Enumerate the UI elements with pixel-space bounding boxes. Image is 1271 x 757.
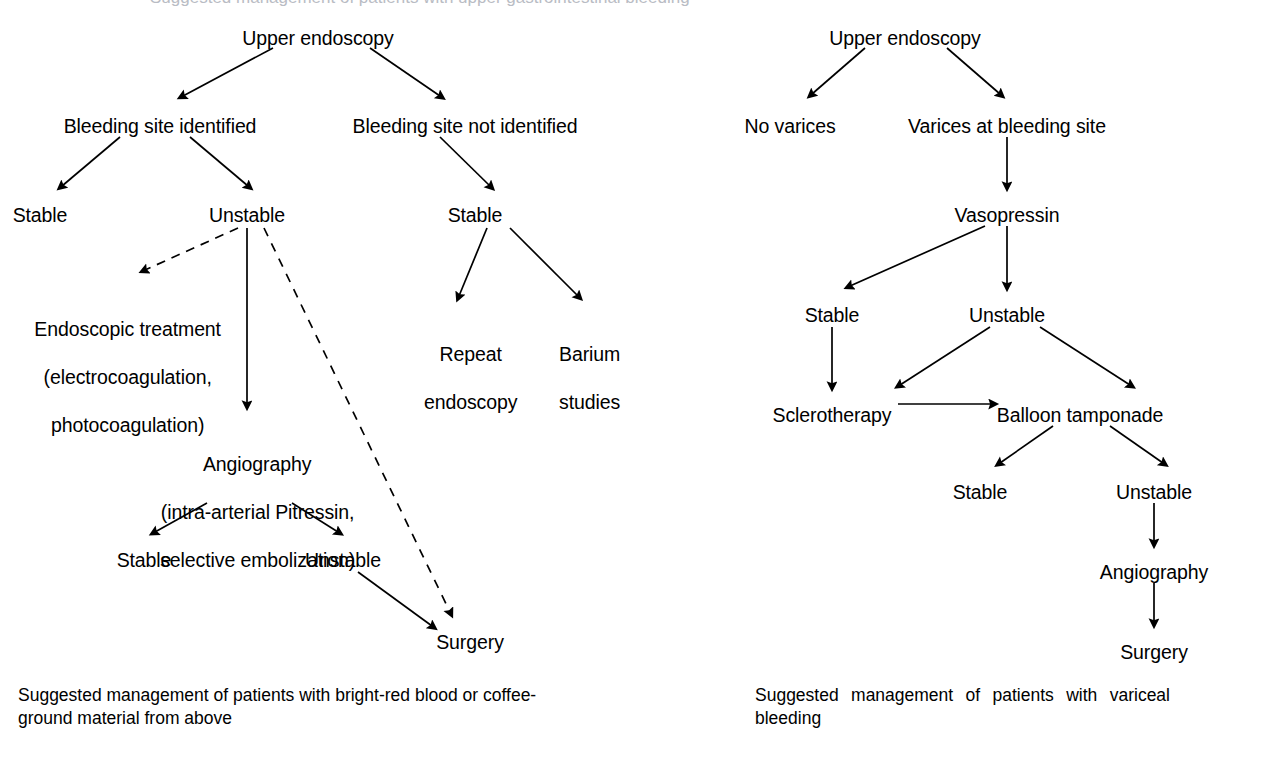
node-bleeding-site-identified[interactable]: Bleeding site identified bbox=[64, 114, 257, 138]
edge-r-upper-to-varices-site bbox=[947, 48, 1000, 94]
edge-stable2-to-repeat-endoscopy bbox=[459, 228, 487, 296]
edge-unstable-to-endoscopic-treatment bbox=[145, 228, 238, 270]
node-stable-after-site-not-identified[interactable]: Stable bbox=[448, 203, 503, 227]
edge-r-vasopressin-to-stable bbox=[850, 226, 985, 286]
node-line: (intra-arterial Pitressin, bbox=[161, 501, 355, 523]
caption-right-figure: Suggested management of patients with va… bbox=[755, 684, 1170, 730]
node-line: Angiography bbox=[203, 453, 311, 475]
edge-unstable2-to-surgery bbox=[358, 572, 432, 626]
node-stable-after-angiography[interactable]: Stable bbox=[117, 548, 172, 572]
caption-line: bleeding bbox=[755, 707, 1170, 730]
node-barium-studies[interactable]: Barium studies bbox=[538, 318, 620, 438]
edge-r-balloon-to-stable bbox=[1000, 426, 1053, 463]
caption-line: Suggested management of patients with br… bbox=[18, 684, 618, 707]
node-surgery-right[interactable]: Surgery bbox=[1120, 640, 1188, 664]
caption-line: Suggested management of patients with va… bbox=[755, 684, 1170, 707]
node-no-varices[interactable]: No varices bbox=[744, 114, 835, 138]
node-stable-after-vasopressin[interactable]: Stable bbox=[805, 303, 860, 327]
node-balloon-tamponade[interactable]: Balloon tamponade bbox=[997, 403, 1163, 427]
node-stable-after-site-identified[interactable]: Stable bbox=[13, 203, 68, 227]
node-unstable-after-balloon[interactable]: Unstable bbox=[1116, 480, 1192, 504]
node-upper-endoscopy-right[interactable]: Upper endoscopy bbox=[829, 26, 980, 50]
node-line: Endoscopic treatment bbox=[34, 318, 221, 340]
node-repeat-endoscopy[interactable]: Repeat endoscopy bbox=[403, 318, 518, 438]
node-unstable-after-site-identified[interactable]: Unstable bbox=[209, 203, 285, 227]
node-unstable-after-vasopressin[interactable]: Unstable bbox=[969, 303, 1045, 327]
edge-upper-to-site-identified bbox=[183, 48, 273, 96]
node-unstable-after-angiography[interactable]: Unstable bbox=[305, 548, 381, 572]
node-angiography-right[interactable]: Angiography bbox=[1100, 560, 1208, 584]
edge-r-unstable-to-balloon bbox=[1040, 327, 1130, 385]
node-sclerotherapy[interactable]: Sclerotherapy bbox=[772, 403, 891, 427]
node-line: Repeat bbox=[439, 343, 501, 365]
node-surgery-left[interactable]: Surgery bbox=[436, 630, 504, 654]
node-vasopressin[interactable]: Vasopressin bbox=[955, 203, 1060, 227]
edge-upper-to-site-not-identified bbox=[370, 48, 440, 96]
node-bleeding-site-not-identified[interactable]: Bleeding site not identified bbox=[353, 114, 578, 138]
edge-r-unstable-to-sclerotherapy bbox=[900, 327, 990, 385]
caption-line: ground material from above bbox=[18, 707, 618, 730]
edge-r-upper-to-no-varices bbox=[812, 48, 865, 94]
caption-left-figure: Suggested management of patients with br… bbox=[18, 684, 618, 730]
edge-site-identified-to-stable bbox=[62, 137, 120, 186]
node-varices-at-bleeding-site[interactable]: Varices at bleeding site bbox=[908, 114, 1106, 138]
diagram-canvas: Suggested management of patients with up… bbox=[0, 0, 1271, 757]
node-stable-after-balloon[interactable]: Stable bbox=[953, 480, 1008, 504]
edge-r-balloon-to-unstable bbox=[1110, 426, 1163, 463]
node-line: Barium bbox=[559, 343, 620, 365]
node-line: studies bbox=[559, 391, 620, 413]
edge-site-identified-to-unstable bbox=[190, 137, 248, 186]
edge-stable2-to-barium-studies bbox=[510, 228, 578, 296]
clipped-heading: Suggested management of patients with up… bbox=[0, 0, 1271, 7]
edge-site-not-identified-to-stable bbox=[440, 137, 490, 186]
node-line: (electrocoagulation, bbox=[44, 366, 212, 388]
node-line: endoscopy bbox=[424, 391, 517, 413]
node-upper-endoscopy-left[interactable]: Upper endoscopy bbox=[242, 26, 393, 50]
